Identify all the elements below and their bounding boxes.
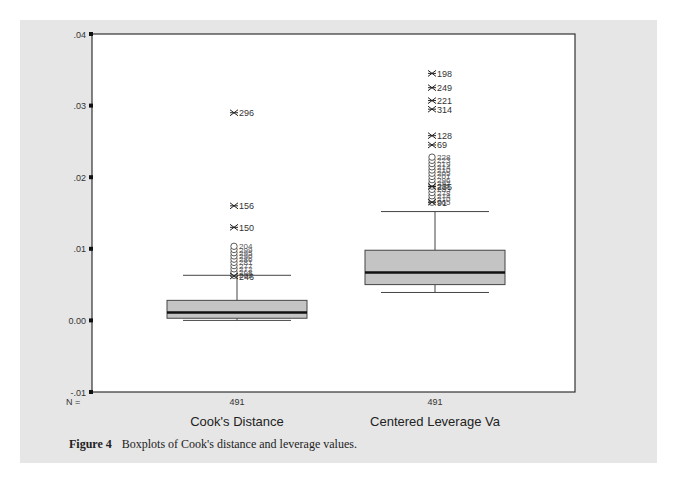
outlier-label: 204 <box>239 242 253 251</box>
n-value: 491 <box>427 397 442 407</box>
extreme-label: 246 <box>239 272 254 282</box>
outlier-circle <box>429 154 435 160</box>
y-tick-label: .03 <box>73 101 86 111</box>
n-value: 491 <box>229 397 244 407</box>
category-label: Centered Leverage Va <box>370 414 501 429</box>
caption-label: Figure 4 <box>69 437 112 451</box>
extreme-label: 69 <box>437 140 447 150</box>
outlier-label: 228 <box>437 153 451 162</box>
extreme-label: 249 <box>437 83 452 93</box>
y-tick-mark <box>89 247 93 251</box>
iqr-box <box>167 300 307 318</box>
y-tick-mark <box>89 32 93 36</box>
iqr-box <box>365 250 505 284</box>
extreme-label: 198 <box>437 69 452 79</box>
x-axis-labels: N =491Cook's Distance491Centered Leverag… <box>66 397 501 429</box>
boxplot-chart: .04.03.02.010.00-.01 2632682722772812862… <box>0 0 677 485</box>
y-tick-label: -.01 <box>70 388 86 398</box>
extreme-label: 156 <box>239 201 254 211</box>
caption-text: Boxplots of Cook's distance and leverage… <box>122 437 357 451</box>
y-tick-label: .02 <box>73 173 86 183</box>
extreme-label: 235 <box>437 182 452 192</box>
category-label: Cook's Distance <box>190 414 284 429</box>
extreme-label: 150 <box>239 223 254 233</box>
y-tick-mark <box>89 104 93 108</box>
outlier-circle <box>231 243 237 249</box>
y-tick-label: .01 <box>73 244 86 254</box>
y-tick-label: 0.00 <box>68 316 86 326</box>
extreme-label: 314 <box>437 105 452 115</box>
plot-area <box>92 34 575 392</box>
y-tick-mark <box>89 175 93 179</box>
y-tick-mark <box>89 390 93 394</box>
n-label: N = <box>66 397 80 407</box>
extreme-label: 296 <box>239 108 254 118</box>
extreme-label: 91 <box>437 198 447 208</box>
y-tick-mark <box>89 318 93 322</box>
figure-caption: Figure 4Boxplots of Cook's distance and … <box>69 437 357 452</box>
y-tick-label: .04 <box>73 30 86 40</box>
y-axis: .04.03.02.010.00-.01 <box>68 30 93 398</box>
